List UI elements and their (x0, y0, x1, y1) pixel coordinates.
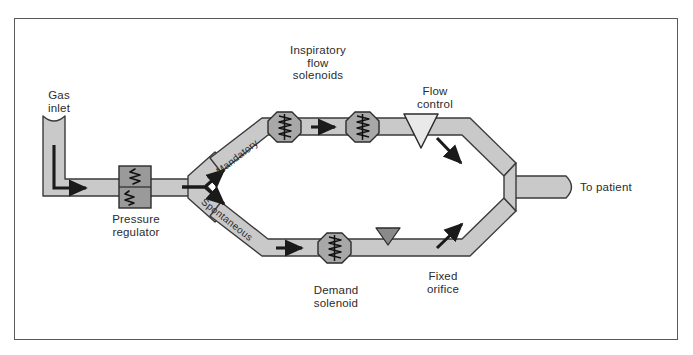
spontaneous-branch-pipe (210, 198, 516, 256)
figure-caption (16, 348, 576, 355)
inspiratory-flow-solenoid-1[interactable] (268, 112, 301, 142)
label-flow-control: Flow control (400, 85, 470, 110)
post-flow-control-arrow (437, 138, 461, 163)
label-fixed-orifice: Fixed orifice (410, 270, 476, 295)
pressure-regulator[interactable] (119, 166, 151, 208)
label-to-patient: To patient (580, 181, 670, 194)
inspiratory-flow-solenoid-2[interactable] (346, 112, 379, 142)
label-demand-solenoid: Demand solenoid (292, 284, 380, 309)
demand-solenoid[interactable] (318, 233, 351, 263)
label-pressure-regulator: Pressure regulator (99, 213, 173, 238)
diagram-page: Gas inlet Pressure regulator Inspiratory… (0, 0, 693, 355)
label-inspiratory-flow-solenoids: Inspiratory flow solenoids (262, 44, 374, 82)
label-gas-inlet: Gas inlet (33, 89, 85, 114)
